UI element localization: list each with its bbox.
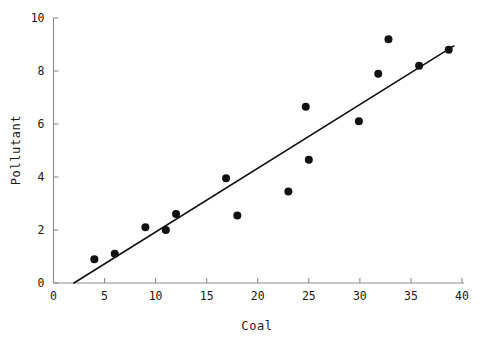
data-point xyxy=(284,188,292,196)
x-tick-label-10: 10 xyxy=(149,289,163,303)
y-tick-label-group: 0246810 xyxy=(31,11,45,290)
x-tick-label-25: 25 xyxy=(302,289,316,303)
regression-line xyxy=(74,46,454,283)
data-point xyxy=(374,70,382,78)
y-tick-group xyxy=(54,18,59,283)
y-tick-label-0: 0 xyxy=(38,276,45,290)
data-point xyxy=(305,156,313,164)
data-point xyxy=(162,226,170,234)
data-point xyxy=(172,210,180,218)
y-axis-title: Pollutant xyxy=(9,115,23,185)
y-tick-label-8: 8 xyxy=(38,64,45,78)
x-axis-group: 0510152025303540 xyxy=(50,278,469,303)
data-point xyxy=(90,255,98,263)
data-point xyxy=(355,117,363,125)
y-axis-group: 0246810 xyxy=(31,11,59,290)
data-point-group xyxy=(90,35,452,263)
data-point xyxy=(111,250,119,258)
data-point xyxy=(415,62,423,70)
x-tick-label-group: 0510152025303540 xyxy=(50,289,469,303)
x-tick-label-40: 40 xyxy=(455,289,469,303)
x-tick-label-15: 15 xyxy=(200,289,214,303)
y-tick-label-4: 4 xyxy=(38,170,45,184)
data-point xyxy=(141,223,149,231)
data-point xyxy=(384,35,392,43)
data-point xyxy=(302,103,310,111)
x-tick-label-20: 20 xyxy=(251,289,265,303)
x-tick-label-5: 5 xyxy=(101,289,108,303)
x-tick-label-35: 35 xyxy=(404,289,418,303)
data-point xyxy=(233,211,241,219)
x-tick-label-30: 30 xyxy=(353,289,367,303)
y-tick-label-2: 2 xyxy=(38,223,45,237)
y-tick-label-10: 10 xyxy=(31,11,45,25)
x-tick-label-0: 0 xyxy=(50,289,57,303)
scatter-plot-figure: 0246810 0510152025303540 Coal Pollutant xyxy=(0,0,484,338)
data-point xyxy=(445,46,453,54)
x-axis-title: Coal xyxy=(241,319,272,333)
plot-canvas: 0246810 0510152025303540 Coal Pollutant xyxy=(0,0,484,338)
x-tick-group xyxy=(54,278,463,283)
y-tick-label-6: 6 xyxy=(38,117,45,131)
data-point xyxy=(222,174,230,182)
